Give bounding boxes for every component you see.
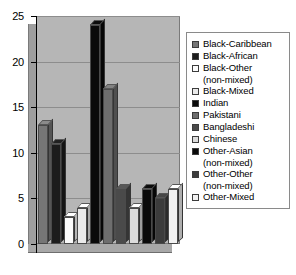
- bar: [51, 144, 61, 244]
- legend-item[interactable]: Chinese: [192, 133, 285, 144]
- bar-front-face: [77, 208, 87, 244]
- y-axis-tick-label: 5: [0, 192, 24, 204]
- legend-swatch-icon: [192, 41, 199, 48]
- legend-item[interactable]: Other-Asian: [192, 145, 285, 156]
- legend-swatch-icon: [192, 53, 199, 60]
- bar-front-face: [90, 25, 100, 244]
- bar: [129, 208, 139, 244]
- bar-front-face: [103, 89, 113, 244]
- bar-front-face: [116, 189, 126, 244]
- legend-swatch-icon: [192, 112, 199, 119]
- bar-front-face: [51, 144, 61, 244]
- chart-legend: Black-CaribbeanBlack-AfricanBlack-Other(…: [186, 32, 290, 209]
- legend-item[interactable]: Bangladeshi: [192, 121, 285, 132]
- plot-side-wall: [28, 24, 36, 252]
- legend-item-sublabel: (non-mixed): [192, 180, 285, 191]
- legend-swatch-icon: [192, 100, 199, 107]
- legend-swatch-icon: [192, 65, 199, 72]
- legend-item-label: Pakistani: [203, 109, 241, 120]
- bar: [155, 198, 165, 244]
- legend-item[interactable]: Pakistani: [192, 109, 285, 120]
- legend-item-sublabel: (non-mixed): [192, 157, 285, 168]
- bar: [64, 217, 74, 244]
- legend-swatch-icon: [192, 136, 199, 143]
- bar-front-face: [168, 189, 178, 244]
- bar-front-face: [64, 217, 74, 244]
- y-axis-tick-label: 0: [0, 238, 24, 250]
- bar-front-face: [155, 198, 165, 244]
- bar-series: [36, 16, 180, 253]
- legend-item-label: Chinese: [203, 133, 237, 144]
- legend-swatch-icon: [192, 88, 199, 95]
- legend-item-label: Other-Asian: [203, 145, 253, 156]
- plot-area: [28, 16, 180, 256]
- legend-item[interactable]: Other-Mixed: [192, 191, 285, 202]
- bar: [168, 189, 178, 244]
- bar: [38, 125, 48, 244]
- legend-item[interactable]: Indian: [192, 97, 285, 108]
- legend-swatch-icon: [192, 148, 199, 155]
- legend-item[interactable]: Black-Caribbean: [192, 38, 285, 49]
- legend-item-label: Other-Mixed: [203, 191, 254, 202]
- legend-item-label: Indian: [203, 97, 228, 108]
- bar-side-face: [178, 183, 183, 242]
- legend-swatch-icon: [192, 171, 199, 178]
- legend-swatch-icon: [192, 194, 199, 201]
- y-axis-tick-label: 15: [0, 101, 24, 113]
- bar: [77, 208, 87, 244]
- y-axis-tick-label: 25: [0, 10, 24, 22]
- bar-front-face: [129, 208, 139, 244]
- legend-item-sublabel: (non-mixed): [192, 74, 285, 85]
- legend-swatch-icon: [192, 124, 199, 131]
- legend-item-label: Black-Caribbean: [203, 38, 272, 49]
- chart-figure: 0510152025 Black-CaribbeanBlack-AfricanB…: [0, 0, 296, 275]
- y-axis-tick-label: 20: [0, 56, 24, 68]
- y-axis-tick-label: 10: [0, 147, 24, 159]
- legend-item-label: Black-Other: [203, 62, 252, 73]
- legend-item[interactable]: Other-Other: [192, 168, 285, 179]
- legend-item[interactable]: Black-African: [192, 50, 285, 61]
- bar: [90, 25, 100, 244]
- bar: [142, 189, 152, 244]
- legend-item-label: Black-Mixed: [203, 85, 254, 96]
- bar: [103, 89, 113, 244]
- legend-item[interactable]: Black-Other: [192, 62, 285, 73]
- legend-item[interactable]: Black-Mixed: [192, 85, 285, 96]
- bar-front-face: [38, 125, 48, 244]
- legend-item-label: Black-African: [203, 50, 258, 61]
- legend-item-label: Bangladeshi: [203, 121, 254, 132]
- bar: [116, 189, 126, 244]
- bar-front-face: [142, 189, 152, 244]
- legend-item-label: Other-Other: [203, 168, 253, 179]
